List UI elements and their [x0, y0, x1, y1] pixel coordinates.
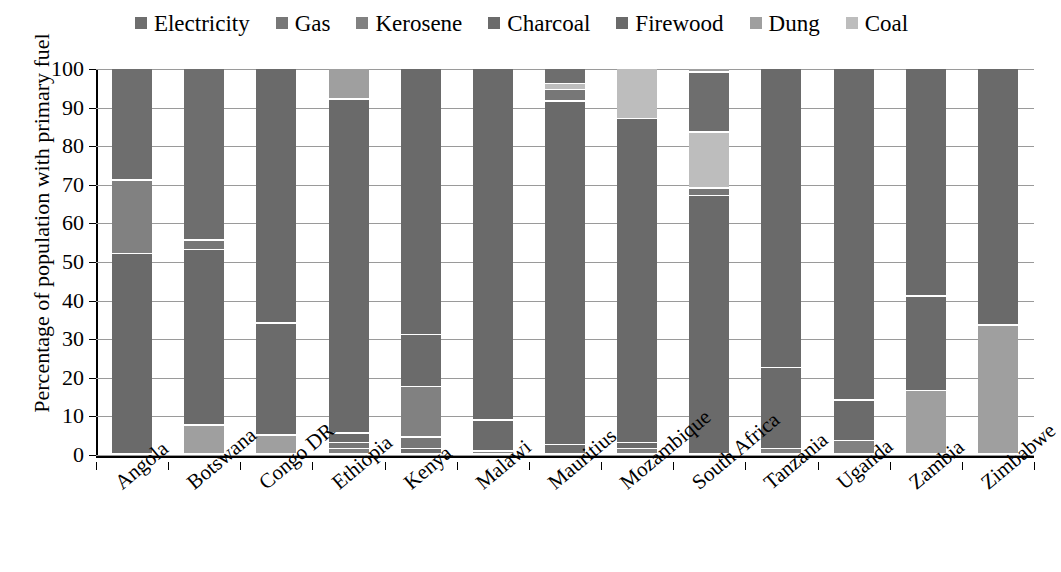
bar-segment-gas[interactable]: [545, 90, 585, 100]
x-tick-mark: [168, 462, 169, 470]
y-tick-label: 80: [14, 135, 84, 157]
bar-segment-firewood[interactable]: [761, 69, 801, 367]
bar-segment-firewood[interactable]: [401, 69, 441, 334]
bar-segment-charcoal[interactable]: [256, 324, 296, 434]
x-tick-mark: [1034, 462, 1035, 470]
y-tick-mark: [89, 416, 96, 417]
bar-segment-dung[interactable]: [329, 69, 369, 98]
x-tick-mark: [312, 462, 313, 470]
bar-segment-firewood[interactable]: [978, 69, 1018, 324]
bar-segment-electricity[interactable]: [184, 69, 224, 239]
bar-south-africa[interactable]: [689, 69, 729, 455]
y-tick-label: 40: [14, 290, 84, 312]
x-tick-mark: [601, 462, 602, 470]
legend-item-coal[interactable]: Coal: [846, 12, 908, 35]
bar-segment-charcoal[interactable]: [834, 401, 874, 440]
bar-mauritius[interactable]: [545, 69, 585, 455]
y-tick-label: 50: [14, 251, 84, 273]
bar-segment-charcoal[interactable]: [906, 297, 946, 390]
legend-item-kerosene[interactable]: Kerosene: [356, 12, 462, 35]
bar-segment-charcoal[interactable]: [401, 335, 441, 386]
bar-botswana[interactable]: [184, 69, 224, 455]
legend-label: Dung: [769, 12, 820, 35]
legend-swatch-icon: [488, 17, 500, 29]
y-tick-mark: [89, 378, 96, 379]
y-tick-mark: [89, 339, 96, 340]
bar-segment-coal[interactable]: [545, 84, 585, 88]
bar-kenya[interactable]: [401, 69, 441, 455]
legend-item-dung[interactable]: Dung: [750, 12, 820, 35]
x-tick-mark: [529, 462, 530, 470]
y-tick-mark: [89, 185, 96, 186]
bar-segment-gas[interactable]: [689, 189, 729, 195]
legend-swatch-icon: [276, 17, 288, 29]
bar-segment-dung[interactable]: [689, 69, 729, 71]
x-tick-mark: [818, 462, 819, 470]
legend-swatch-icon: [846, 17, 858, 29]
bar-segment-firewood[interactable]: [834, 69, 874, 399]
x-tick-mark: [385, 462, 386, 470]
y-tick-mark: [89, 146, 96, 147]
y-tick-label: 100: [14, 58, 84, 80]
bar-segment-firewood[interactable]: [256, 69, 296, 322]
bar-segment-firewood[interactable]: [184, 250, 224, 424]
plot-area: 1009080706050403020100: [96, 69, 1034, 455]
legend-item-gas[interactable]: Gas: [276, 12, 331, 35]
bar-malawi[interactable]: [473, 69, 513, 455]
y-tick-mark: [89, 223, 96, 224]
legend-label: Kerosene: [375, 12, 462, 35]
legend-swatch-icon: [616, 17, 628, 29]
bar-segment-coal[interactable]: [617, 69, 657, 118]
legend-swatch-icon: [356, 17, 368, 29]
bar-segment-electricity[interactable]: [545, 69, 585, 83]
bar-segment-coal[interactable]: [689, 133, 729, 187]
bar-angola[interactable]: [112, 69, 152, 455]
bar-segment-firewood[interactable]: [329, 100, 369, 432]
bar-segment-firewood[interactable]: [473, 69, 513, 419]
bar-segment-firewood[interactable]: [112, 254, 152, 453]
bar-segment-kerosene[interactable]: [112, 181, 152, 253]
bar-segment-kerosene[interactable]: [401, 387, 441, 436]
legend-item-charcoal[interactable]: Charcoal: [488, 12, 590, 35]
chart-legend: ElectricityGasKeroseneCharcoalFirewoodDu…: [0, 8, 1043, 38]
y-tick-mark: [89, 69, 96, 70]
bar-segment-firewood[interactable]: [617, 119, 657, 442]
bar-segment-dung[interactable]: [906, 391, 946, 453]
y-tick-label: 10: [14, 405, 84, 427]
bar-segment-firewood[interactable]: [545, 102, 585, 444]
x-tick-mark: [890, 462, 891, 470]
legend-item-firewood[interactable]: Firewood: [616, 12, 723, 35]
y-tick-mark: [89, 455, 96, 456]
bar-segment-electricity[interactable]: [689, 73, 729, 131]
bar-segment-electricity[interactable]: [112, 69, 152, 179]
bar-segment-gas[interactable]: [184, 241, 224, 249]
legend-label: Coal: [865, 12, 908, 35]
legend-label: Gas: [295, 12, 331, 35]
y-tick-label: 60: [14, 212, 84, 234]
bar-segment-dung[interactable]: [978, 326, 1018, 454]
bar-zambia[interactable]: [906, 69, 946, 455]
x-tick-mark: [96, 462, 97, 470]
legend-label: Charcoal: [507, 12, 590, 35]
legend-label: Electricity: [154, 12, 250, 35]
x-tick-mark: [457, 462, 458, 470]
x-tick-mark: [962, 462, 963, 470]
legend-swatch-icon: [750, 17, 762, 29]
bar-mozambique[interactable]: [617, 69, 657, 455]
bar-uganda[interactable]: [834, 69, 874, 455]
legend-item-electricity[interactable]: Electricity: [135, 12, 250, 35]
x-tick-mark: [673, 462, 674, 470]
bar-segment-firewood[interactable]: [906, 69, 946, 295]
legend-swatch-icon: [135, 17, 147, 29]
bar-zimbabwe[interactable]: [978, 69, 1018, 455]
bar-tanzania[interactable]: [761, 69, 801, 455]
bar-congo-dr[interactable]: [256, 69, 296, 455]
y-tick-mark: [89, 108, 96, 109]
y-tick-label: 30: [14, 328, 84, 350]
x-axis-labels: AngolaBotswanaCongo DREthiopiaKenyaMalaw…: [0, 462, 1043, 572]
bar-ethiopia[interactable]: [329, 69, 369, 455]
y-tick-label: 70: [14, 174, 84, 196]
legend-label: Firewood: [635, 12, 723, 35]
y-tick-label: 90: [14, 97, 84, 119]
